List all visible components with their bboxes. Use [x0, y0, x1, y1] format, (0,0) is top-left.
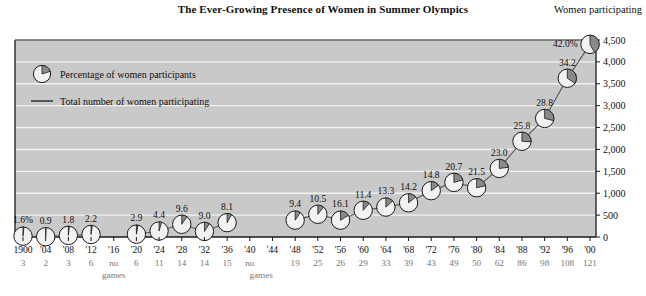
pie-marker — [331, 211, 349, 229]
pie-marker — [377, 198, 395, 216]
x-axis-tick-label: '68 — [403, 244, 415, 255]
y-axis-tick-label: 3,500 — [603, 78, 626, 89]
x-axis-tick-label: '52 — [312, 244, 324, 255]
events-count-label: 98 — [540, 258, 550, 268]
pie-percentage-label: 10.5 — [309, 193, 326, 204]
pie-marker — [399, 194, 417, 212]
pie-percentage-label: 9.6 — [176, 203, 188, 214]
events-count-label: 14 — [200, 258, 210, 268]
legend-label-pie: Percentage of women participants — [60, 69, 196, 80]
events-count-label: 121 — [583, 258, 597, 268]
pie-percentage-label: 42.0% — [553, 38, 578, 49]
events-count-label: 62 — [495, 258, 505, 268]
pie-marker — [173, 215, 191, 233]
pie-marker — [309, 205, 327, 223]
pie-percentage-label: 0.9 — [40, 215, 52, 226]
x-axis-tick-label: '08 — [63, 244, 75, 255]
pie-marker — [513, 132, 531, 150]
pie-percentage-label: 13.3 — [377, 185, 394, 196]
x-axis-tick-label: '88 — [516, 244, 528, 255]
pie-percentage-label: 1.6% — [13, 214, 33, 225]
pie-percentage-label: 16.1 — [332, 198, 349, 209]
pie-percentage-label: 25.8 — [514, 120, 531, 131]
events-count-label: 50 — [472, 258, 482, 268]
events-count-label: 14 — [177, 258, 187, 268]
events-count-label: 25 — [313, 258, 323, 268]
pie-percentage-label: 21.5 — [468, 166, 485, 177]
pie-marker-slice — [46, 228, 47, 237]
y-axis-tick-label: 500 — [603, 210, 618, 221]
pie-percentage-label: 9.4 — [289, 198, 301, 209]
pie-percentage-label: 8.1 — [221, 201, 233, 212]
pie-marker — [558, 69, 576, 87]
events-count-label: 3 — [66, 258, 71, 268]
events-count-label: 39 — [404, 258, 414, 268]
pie-marker — [445, 173, 463, 191]
events-count-label: 11 — [155, 258, 164, 268]
pie-marker — [581, 35, 599, 53]
x-axis-tick-label: '92 — [539, 244, 551, 255]
x-axis-tick-label: '12 — [85, 244, 97, 255]
pie-marker — [422, 181, 440, 199]
x-axis-tick-label: '80 — [471, 244, 483, 255]
pie-percentage-label: 11.4 — [355, 189, 372, 200]
y-axis-tick-label: 3,000 — [603, 100, 626, 111]
events-count-label: 86 — [517, 258, 527, 268]
events-count-label: no — [109, 258, 119, 268]
x-axis-tick-label: '96 — [562, 244, 574, 255]
y-axis-tick-label: 2,500 — [603, 122, 626, 133]
x-axis-tick-label: '76 — [448, 244, 460, 255]
pie-percentage-label: 4.4 — [153, 209, 165, 220]
events-count-label: 29 — [359, 258, 369, 268]
pie-percentage-label: 2.9 — [130, 212, 142, 223]
x-axis-tick-label: '04 — [40, 244, 52, 255]
pie-percentage-label: 14.8 — [423, 169, 440, 180]
pie-percentage-label: 34.2 — [559, 57, 576, 68]
x-axis-tick-label: '36 — [221, 244, 233, 255]
x-axis-tick-label: '32 — [199, 244, 211, 255]
events-count-label: 49 — [449, 258, 459, 268]
x-axis-tick-label: '84 — [494, 244, 506, 255]
events-count-label: 15 — [223, 258, 233, 268]
pie-marker — [286, 211, 304, 229]
events-count-label: 3 — [21, 258, 26, 268]
x-axis-tick-label: '24 — [153, 244, 165, 255]
events-count-label: 2 — [43, 258, 48, 268]
events-count-label: 26 — [336, 258, 346, 268]
y-axis-tick-label: 1,000 — [603, 188, 626, 199]
pie-marker — [59, 226, 77, 244]
pie-marker — [14, 227, 32, 245]
events-count-label: no — [245, 258, 255, 268]
x-axis-tick-label: 1900 — [13, 244, 32, 255]
events-count-label: 6 — [89, 258, 94, 268]
pie-percentage-label: 9.0 — [198, 210, 210, 221]
pie-percentage-label: 2.2 — [85, 213, 97, 224]
y-axis-tick-label: 0 — [603, 232, 608, 243]
events-count-label: 19 — [291, 258, 301, 268]
x-axis-tick-label: '72 — [426, 244, 438, 255]
pie-percentage-label: 28.8 — [536, 97, 553, 108]
x-axis-tick-label: '60 — [358, 244, 370, 255]
no-games-sublabel: games — [102, 270, 126, 280]
events-count-label: 43 — [427, 258, 437, 268]
x-axis-tick-label: '16 — [108, 244, 120, 255]
pie-percentage-label: 20.7 — [446, 161, 463, 172]
x-axis-tick-label: '20 — [131, 244, 143, 255]
events-count-label: 6 — [134, 258, 139, 268]
pie-percentage-label: 14.2 — [400, 181, 417, 192]
x-axis-tick-label: '56 — [335, 244, 347, 255]
pie-percentage-label: 1.8 — [62, 214, 74, 225]
x-axis-tick-label: '64 — [380, 244, 392, 255]
x-axis-tick-label: '44 — [267, 244, 279, 255]
x-axis-tick-label: '48 — [289, 244, 301, 255]
y-axis-tick-label: 2,000 — [603, 144, 626, 155]
pie-marker — [218, 213, 236, 231]
pie-marker — [467, 179, 485, 197]
events-count-label: 33 — [381, 258, 391, 268]
pie-marker — [490, 159, 508, 177]
legend-label-line: Total number of women participating — [60, 96, 209, 107]
pie-marker — [535, 109, 553, 127]
x-axis-tick-label: '40 — [244, 244, 256, 255]
x-axis-tick-label: '28 — [176, 244, 188, 255]
no-games-sublabel: games — [249, 270, 273, 280]
